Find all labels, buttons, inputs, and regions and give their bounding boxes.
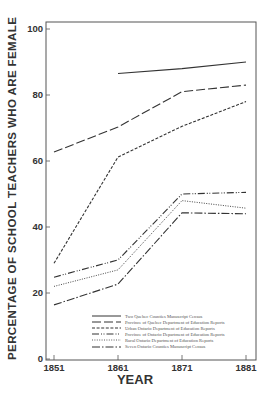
legend-line-swatch-icon <box>92 337 121 343</box>
legend-line-swatch-icon <box>92 325 121 331</box>
series-line <box>54 102 246 264</box>
series-line <box>54 201 246 287</box>
y-axis-label: PERCENTAGE OF SCHOOL TEACHERS WHO ARE FE… <box>6 17 18 360</box>
legend-line-swatch-icon <box>92 319 121 325</box>
legend-line-swatch-icon <box>92 331 121 337</box>
x-tick-label: 1871 <box>167 362 197 373</box>
legend-label: Urban Ontario Department of Education Re… <box>125 326 215 331</box>
legend-label: Province of Quebec Department of Educati… <box>125 320 225 325</box>
x-axis-label: YEAR <box>117 372 153 387</box>
y-tick-label: 100 <box>21 23 43 34</box>
plot-frame <box>46 22 256 360</box>
legend-label: Two Quebec Counties Manuscript Census <box>125 314 202 319</box>
x-tick-label: 1861 <box>103 362 133 373</box>
legend-line-swatch-icon <box>92 344 121 350</box>
legend-label: Seven Ontario Counties Manuscript Census <box>125 344 205 349</box>
legend: Two Quebec Counties Manuscript CensusPro… <box>92 313 257 350</box>
legend-item: Seven Ontario Counties Manuscript Census <box>92 343 257 349</box>
axis-ticks <box>46 29 246 360</box>
series-lines <box>54 62 246 305</box>
x-tick-label: 1881 <box>231 362 261 373</box>
y-tick-label: 20 <box>21 287 43 298</box>
y-tick-label: 60 <box>21 155 43 166</box>
x-tick-label: 1851 <box>39 362 69 373</box>
series-line <box>54 213 246 305</box>
legend-line-swatch-icon <box>92 313 121 319</box>
legend-label: Province of Ontario Department of Educat… <box>125 332 225 337</box>
y-tick-label: 40 <box>21 221 43 232</box>
y-tick-label: 80 <box>21 89 43 100</box>
series-line <box>118 62 246 74</box>
legend-label: Rural Ontario Department of Education Re… <box>125 338 213 343</box>
